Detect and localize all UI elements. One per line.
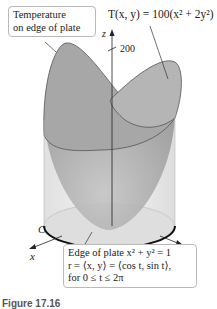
- callout-temperature-line2: on edge of plate: [13, 22, 91, 35]
- x-axis: [32, 236, 62, 248]
- curve-c-label: C: [38, 223, 45, 235]
- surface-equation: T(x, y) = 100(x² + 2y²): [108, 8, 213, 20]
- callout-edge-line2: r = ⟨x, y⟩ = ⟨cos t, sin t⟩,: [68, 260, 192, 273]
- callout-edge-line1: Edge of plate x² + y² = 1: [68, 247, 192, 260]
- z-axis-label: z: [102, 28, 106, 39]
- callout-plate-edge: Edge of plate x² + y² = 1 r = ⟨x, y⟩ = ⟨…: [63, 244, 197, 288]
- z-tick-label: 200: [120, 43, 135, 54]
- callout-temperature: Temperature on edge of plate: [8, 6, 96, 37]
- z-axis-arrowhead: [110, 29, 115, 36]
- callout-temperature-line1: Temperature: [13, 9, 91, 22]
- x-axis-arrowhead: [29, 244, 36, 249]
- x-axis-label: x: [30, 250, 35, 262]
- leader-temperature: [45, 42, 56, 52]
- callout-edge-line3: for 0 ≤ t ≤ 2π: [68, 272, 192, 285]
- figure-caption: Figure 17.16: [2, 298, 60, 309]
